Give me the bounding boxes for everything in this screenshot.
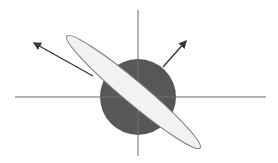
diagram-canvas [0,0,278,163]
